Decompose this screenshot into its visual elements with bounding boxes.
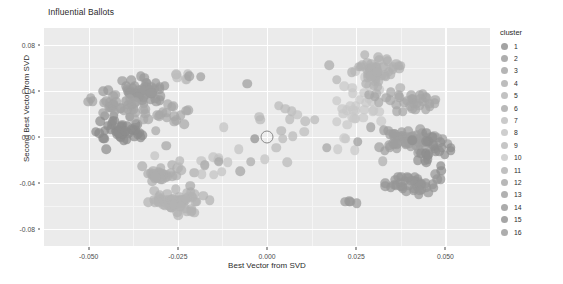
legend-title: cluster [500, 28, 560, 37]
data-point [407, 136, 417, 146]
legend-item-cluster-14[interactable]: 14 [498, 201, 560, 213]
legend-key-swatch [498, 214, 510, 226]
legend-key-swatch [498, 201, 510, 213]
legend-item-cluster-4[interactable]: 4 [498, 77, 560, 89]
x-axis-ticks: -0.050-0.0250.0000.0250.050 [44, 247, 490, 261]
data-point [137, 161, 147, 171]
data-point [432, 175, 442, 185]
data-point [151, 126, 161, 136]
legend-item-cluster-9[interactable]: 9 [498, 139, 560, 151]
data-point [177, 166, 187, 176]
data-point [375, 107, 385, 117]
data-point [325, 61, 335, 71]
legend-item-cluster-2[interactable]: 2 [498, 52, 560, 64]
data-point [101, 145, 111, 155]
legend-item-cluster-12[interactable]: 12 [498, 176, 560, 188]
data-point [345, 197, 355, 207]
data-point [381, 179, 391, 189]
data-point [246, 157, 256, 167]
data-point [150, 173, 160, 183]
legend-item-label: 1 [514, 43, 518, 50]
data-point [272, 143, 282, 153]
data-point [219, 122, 229, 132]
data-point [340, 133, 350, 143]
gridline-major-horizontal [44, 229, 490, 230]
legend-item-cluster-16[interactable]: 16 [498, 226, 560, 238]
legend-item-label: 8 [514, 129, 518, 136]
data-point [423, 188, 433, 198]
legend-item-cluster-3[interactable]: 3 [498, 65, 560, 77]
legend-key-swatch [498, 53, 510, 65]
data-point [391, 138, 401, 148]
data-point [175, 156, 185, 166]
data-point [283, 158, 293, 168]
data-point [392, 59, 402, 69]
y-tick-label: 0.04 [22, 88, 35, 95]
data-point [388, 129, 398, 139]
data-point [196, 72, 206, 82]
legend-item-cluster-5[interactable]: 5 [498, 90, 560, 102]
data-point [277, 126, 287, 136]
legend-item-label: 16 [514, 229, 522, 236]
legend-item-cluster-8[interactable]: 8 [498, 127, 560, 139]
data-point [343, 120, 353, 130]
x-axis-title: Best Vector from SVD [44, 261, 490, 270]
legend-dot-icon [501, 80, 508, 87]
data-point [176, 202, 186, 212]
legend-key-swatch [498, 226, 510, 238]
legend-item-cluster-6[interactable]: 6 [498, 102, 560, 114]
data-point [333, 145, 343, 155]
data-point [152, 111, 162, 121]
y-tick-mark [38, 182, 41, 183]
legend-item-cluster-1[interactable]: 1 [498, 40, 560, 52]
legend-key-swatch [498, 102, 510, 114]
x-tick-label: -0.050 [79, 253, 98, 260]
legend-item-cluster-13[interactable]: 13 [498, 189, 560, 201]
legend-item-label: 11 [514, 167, 521, 174]
data-point [180, 119, 190, 129]
data-point [167, 102, 177, 112]
legend-item-cluster-11[interactable]: 11 [498, 164, 560, 176]
data-point [402, 96, 412, 106]
legend-item-cluster-10[interactable]: 10 [498, 152, 560, 164]
data-point [86, 94, 96, 104]
legend-item-label: 10 [514, 154, 522, 161]
data-point [357, 61, 367, 71]
x-tick-label: 0.025 [348, 253, 365, 260]
legend-key-swatch [498, 176, 510, 188]
gridline-major-horizontal [44, 45, 490, 46]
x-tick-mark [88, 247, 89, 250]
legend-dot-icon [501, 117, 508, 124]
legend-item-label: 7 [514, 117, 518, 124]
legend-dot-icon [501, 43, 508, 50]
x-tick-mark [177, 247, 178, 250]
data-point [373, 82, 383, 92]
y-axis-ticks: 0.080.040.00-0.04-0.08 [0, 28, 41, 246]
legend-key-swatch [498, 139, 510, 151]
data-point [205, 195, 215, 205]
data-point [300, 127, 310, 137]
data-point [322, 143, 332, 153]
data-point [256, 115, 266, 125]
data-point [184, 71, 194, 81]
data-point [127, 76, 137, 86]
data-point [161, 141, 171, 151]
legend-key-swatch [498, 115, 510, 127]
data-point [350, 146, 360, 156]
data-point [200, 160, 210, 170]
legend-item-label: 15 [514, 216, 522, 223]
legend-item-cluster-15[interactable]: 15 [498, 213, 560, 225]
data-point [337, 104, 347, 114]
x-tick-label: 0.050 [437, 253, 454, 260]
data-point [174, 211, 184, 221]
data-point [300, 117, 310, 127]
data-point [99, 134, 109, 144]
data-point [139, 73, 149, 83]
x-tick-label: 0.000 [258, 253, 275, 260]
legend-dot-icon [501, 129, 508, 136]
y-tick-mark [38, 137, 41, 138]
legend-key-swatch [498, 164, 510, 176]
data-point [197, 170, 207, 180]
legend-item-cluster-7[interactable]: 7 [498, 114, 560, 126]
data-point [217, 167, 227, 177]
